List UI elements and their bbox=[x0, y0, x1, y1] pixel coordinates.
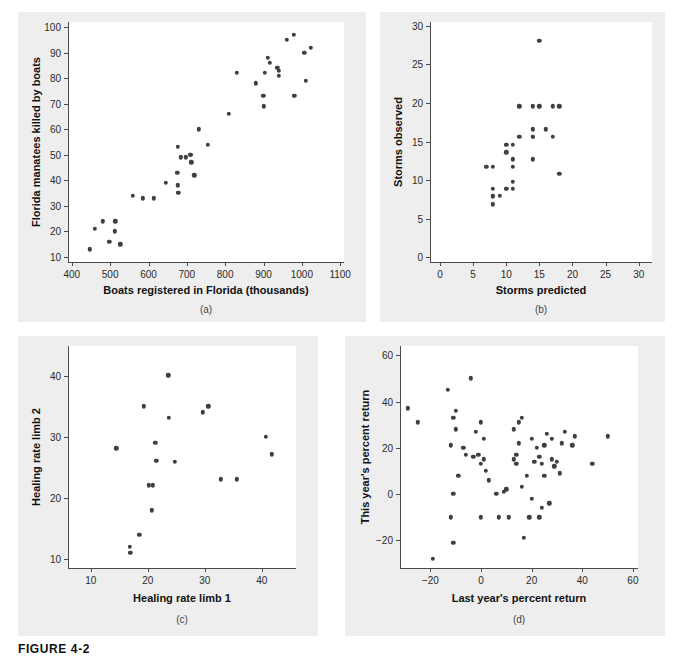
y-tick-label-a: 80 bbox=[34, 73, 61, 84]
y-tick-label-b: 15 bbox=[396, 136, 423, 147]
x-tick-label-c: 30 bbox=[199, 575, 210, 586]
panel-a: Florida manatees killed by boats Boats r… bbox=[18, 12, 366, 322]
y-tick-label-a: 20 bbox=[34, 226, 61, 237]
x-tick-b bbox=[473, 262, 474, 266]
y-tick-label-d: 20 bbox=[366, 442, 393, 453]
y-tick-label-c: 20 bbox=[34, 493, 61, 504]
y-tick-a bbox=[64, 231, 68, 232]
y-tick-label-a: 10 bbox=[34, 251, 61, 262]
panel-d-plot-area bbox=[400, 346, 638, 568]
y-tick-b bbox=[426, 180, 430, 181]
y-tick-label-b: 5 bbox=[396, 213, 423, 224]
figure-caption: FIGURE 4-2 bbox=[18, 642, 90, 657]
y-tick-d bbox=[396, 494, 400, 495]
y-tick-a bbox=[64, 129, 68, 130]
panel-d-x-axis bbox=[400, 568, 638, 569]
y-tick-label-d: 60 bbox=[366, 350, 393, 361]
x-tick-label-a: 600 bbox=[140, 269, 157, 280]
y-tick-b bbox=[426, 103, 430, 104]
panel-d-y-axis bbox=[400, 346, 401, 568]
y-tick-a bbox=[64, 155, 68, 156]
y-tick-d bbox=[396, 448, 400, 449]
x-tick-label-a: 400 bbox=[63, 269, 80, 280]
figure-scatterplots: Florida manatees killed by boats Boats r… bbox=[0, 0, 673, 657]
panel-c-y-axis-title: Healing rate limb 2 bbox=[30, 408, 42, 506]
panel-d: This year's percent return Last year's p… bbox=[345, 336, 665, 636]
panel-c-letter: (c) bbox=[176, 614, 188, 625]
x-tick-a bbox=[72, 262, 73, 266]
panel-c-plot-area bbox=[68, 346, 296, 568]
y-tick-label-a: 40 bbox=[34, 175, 61, 186]
x-tick-label-d: 20 bbox=[526, 575, 537, 586]
y-tick-label-a: 70 bbox=[34, 98, 61, 109]
y-tick-d bbox=[396, 355, 400, 356]
y-tick-label-b: 20 bbox=[396, 98, 423, 109]
panel-a-x-axis-title: Boats registered in Florida (thousands) bbox=[103, 284, 308, 296]
y-tick-c bbox=[64, 559, 68, 560]
y-tick-label-d: 0 bbox=[366, 489, 393, 500]
panel-c-y-axis bbox=[68, 346, 69, 568]
x-tick-b bbox=[639, 262, 640, 266]
y-tick-a bbox=[64, 180, 68, 181]
y-tick-label-d: 40 bbox=[366, 396, 393, 407]
panel-d-x-axis-title: Last year's percent return bbox=[452, 592, 587, 604]
y-tick-d bbox=[396, 540, 400, 541]
y-tick-c bbox=[64, 376, 68, 377]
y-tick-b bbox=[426, 219, 430, 220]
y-tick-b bbox=[426, 26, 430, 27]
panel-b-x-axis bbox=[430, 262, 652, 263]
y-tick-b bbox=[426, 257, 430, 258]
panel-d-letter: (d) bbox=[513, 614, 525, 625]
x-tick-label-c: 40 bbox=[256, 575, 267, 586]
x-tick-label-c: 10 bbox=[85, 575, 96, 586]
panel-b-plot-area bbox=[430, 22, 652, 262]
y-tick-b bbox=[426, 64, 430, 65]
panel-c-x-axis-title: Healing rate limb 1 bbox=[133, 592, 231, 604]
y-tick-label-a: 30 bbox=[34, 200, 61, 211]
x-tick-a bbox=[149, 262, 150, 266]
y-tick-d bbox=[396, 402, 400, 403]
x-tick-c bbox=[262, 568, 263, 572]
x-tick-b bbox=[506, 262, 507, 266]
x-tick-a bbox=[340, 262, 341, 266]
x-tick-label-a: 1000 bbox=[291, 269, 313, 280]
y-tick-label-a: 60 bbox=[34, 124, 61, 135]
x-tick-d bbox=[582, 568, 583, 572]
x-tick-label-b: 10 bbox=[501, 269, 512, 280]
x-tick-c bbox=[205, 568, 206, 572]
panel-b-letter: (b) bbox=[535, 304, 547, 315]
x-tick-label-b: 30 bbox=[633, 269, 644, 280]
y-tick-label-a: 100 bbox=[34, 22, 61, 33]
y-tick-a bbox=[64, 257, 68, 258]
panel-d-y-axis-title: This year's percent return bbox=[359, 390, 371, 525]
y-tick-label-b: 25 bbox=[396, 59, 423, 70]
y-tick-a bbox=[64, 78, 68, 79]
x-tick-b bbox=[440, 262, 441, 266]
x-tick-label-a: 800 bbox=[217, 269, 234, 280]
y-tick-c bbox=[64, 437, 68, 438]
x-tick-c bbox=[148, 568, 149, 572]
x-tick-label-a: 900 bbox=[255, 269, 272, 280]
x-tick-d bbox=[430, 568, 431, 572]
y-tick-a bbox=[64, 27, 68, 28]
y-tick-label-d: −20 bbox=[366, 535, 393, 546]
x-tick-label-b: 0 bbox=[437, 269, 443, 280]
y-tick-label-b: 30 bbox=[396, 20, 423, 31]
x-tick-c bbox=[91, 568, 92, 572]
y-tick-label-b: 10 bbox=[396, 175, 423, 186]
panel-b-y-axis bbox=[430, 22, 431, 262]
y-tick-label-a: 50 bbox=[34, 149, 61, 160]
x-tick-d bbox=[481, 568, 482, 572]
x-tick-a bbox=[302, 262, 303, 266]
x-tick-label-b: 25 bbox=[600, 269, 611, 280]
x-tick-d bbox=[633, 568, 634, 572]
x-tick-label-b: 20 bbox=[567, 269, 578, 280]
x-tick-b bbox=[572, 262, 573, 266]
panel-a-letter: (a) bbox=[200, 304, 212, 315]
y-tick-c bbox=[64, 498, 68, 499]
panel-b: Storms observed Storms predicted (b) 051… bbox=[380, 12, 665, 322]
x-tick-label-d: 60 bbox=[627, 575, 638, 586]
x-tick-a bbox=[225, 262, 226, 266]
y-tick-label-c: 40 bbox=[34, 371, 61, 382]
x-tick-a bbox=[110, 262, 111, 266]
